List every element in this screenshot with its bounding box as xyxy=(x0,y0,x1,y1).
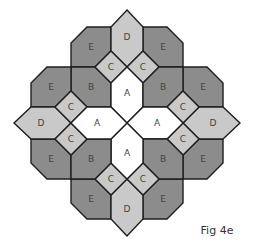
tile-label: C xyxy=(140,174,146,184)
tile-label: B xyxy=(160,82,166,92)
tile-label: C xyxy=(68,134,74,144)
tile-label: A xyxy=(154,118,161,128)
tile-label: C xyxy=(108,62,114,72)
tile-label: E xyxy=(200,82,206,92)
tile-label: A xyxy=(124,88,131,98)
tiling-canvas: EEBDCCAEEBDCCAEEBDCCAEEBDCCA xyxy=(0,0,254,248)
tile-label: B xyxy=(88,82,94,92)
tile-label: B xyxy=(88,154,94,164)
tile-label: E xyxy=(48,82,54,92)
tile-label: C xyxy=(68,102,74,112)
tile-label: E xyxy=(48,154,54,164)
tiling-diagram: EEBDCCAEEBDCCAEEBDCCAEEBDCCA xyxy=(0,0,254,248)
figure-caption: Fig 4e xyxy=(201,224,234,237)
tile-label: D xyxy=(124,32,131,42)
tile-label: E xyxy=(160,42,166,52)
tile-label: A xyxy=(124,148,131,158)
tile-label: C xyxy=(140,62,146,72)
tile-label: C xyxy=(180,102,186,112)
tile-label: E xyxy=(200,154,206,164)
tile-label: E xyxy=(88,194,94,204)
tile-label: A xyxy=(94,118,101,128)
tile-label: D xyxy=(38,118,45,128)
tile-label: B xyxy=(160,154,166,164)
tile-label: D xyxy=(210,118,217,128)
tile-label: C xyxy=(180,134,186,144)
tile-label: E xyxy=(160,194,166,204)
tile-label: E xyxy=(88,42,94,52)
tile-label: D xyxy=(124,204,131,214)
tile-label: C xyxy=(108,174,114,184)
